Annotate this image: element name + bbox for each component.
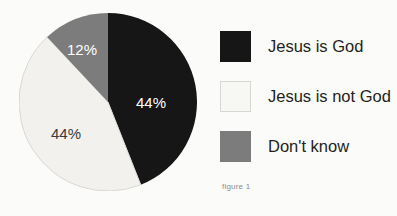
legend-item-jesus-is-not-god[interactable]: Jesus is not God	[220, 81, 395, 112]
pie-slice-value-jesus-is-god: 44%	[136, 94, 166, 111]
chart-legend: Jesus is God Jesus is not God Don't know	[220, 31, 395, 181]
legend-item-dont-know[interactable]: Don't know	[220, 131, 395, 162]
legend-label-jesus-is-not-god: Jesus is not God	[268, 88, 391, 105]
legend-label-jesus-is-god: Jesus is God	[268, 38, 363, 55]
legend-label-dont-know: Don't know	[268, 138, 349, 155]
pie-slice-value-jesus-is-not-god: 44%	[51, 125, 81, 142]
pie-slice-value-dont-know: 12%	[67, 41, 97, 58]
legend-swatch-dont-know	[220, 131, 251, 162]
legend-swatch-jesus-is-god	[220, 31, 251, 62]
figure-caption: figure 1	[222, 182, 250, 191]
legend-item-jesus-is-god[interactable]: Jesus is God	[220, 31, 395, 62]
pie-chart-svg	[19, 13, 197, 191]
pie-chart: 44% 44% 12%	[19, 13, 197, 191]
legend-swatch-jesus-is-not-god	[220, 81, 251, 112]
figure-container: 44% 44% 12% Jesus is God Jesus is not Go…	[0, 0, 397, 216]
